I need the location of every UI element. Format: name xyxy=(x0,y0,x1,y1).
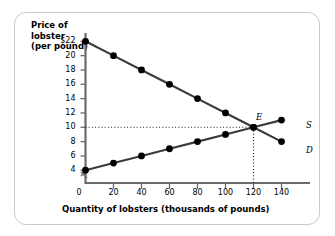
data-point xyxy=(138,153,145,160)
x-tick-label: 40 xyxy=(131,189,153,197)
x-tick-label: 100 xyxy=(215,189,237,197)
data-point xyxy=(278,138,285,145)
data-point xyxy=(138,67,145,74)
y-tick-label: 12 xyxy=(50,109,76,117)
y-tick-label: 20 xyxy=(50,52,76,60)
y-tick-label: 6 xyxy=(50,152,76,160)
data-point xyxy=(82,38,89,45)
supply-curve-label: S xyxy=(306,120,312,130)
x-tick-label: 80 xyxy=(187,189,209,197)
data-point xyxy=(166,81,173,88)
data-point xyxy=(110,160,117,167)
y-tick-label: $22 xyxy=(50,37,76,45)
y-tick-label: 14 xyxy=(50,95,76,103)
x-tick-label: 120 xyxy=(243,189,265,197)
data-point xyxy=(82,167,89,174)
data-point xyxy=(194,138,201,145)
x-tick-label: 20 xyxy=(103,189,125,197)
y-tick-label: 16 xyxy=(50,80,76,88)
equilibrium-label: E xyxy=(256,112,262,122)
y-tick-label: 18 xyxy=(50,66,76,74)
demand-curve-label: D xyxy=(306,145,313,155)
origin-tick-label: 0 xyxy=(68,189,90,197)
x-tick-label: 140 xyxy=(271,189,293,197)
data-point xyxy=(194,95,201,102)
chart-screenshot: Price of lobster (per pound) Quantity of… xyxy=(0,0,335,236)
data-point xyxy=(250,124,257,131)
data-point xyxy=(110,52,117,59)
plot-area xyxy=(0,0,335,236)
series-curves xyxy=(86,41,282,170)
data-point xyxy=(222,110,229,117)
data-point xyxy=(278,117,285,124)
data-point-markers xyxy=(82,38,285,174)
x-tick-label: 60 xyxy=(159,189,181,197)
y-tick-label: 8 xyxy=(50,138,76,146)
y-tick-label: 10 xyxy=(50,123,76,131)
data-point xyxy=(222,131,229,138)
data-point xyxy=(166,145,173,152)
y-tick-label: 4 xyxy=(50,166,76,174)
